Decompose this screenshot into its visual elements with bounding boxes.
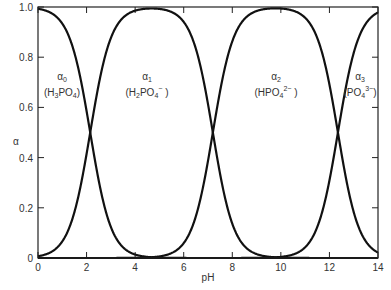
svg-text:(H2PO4− ): (H2PO4− ) — [125, 85, 168, 99]
svg-text:α3: α3 — [355, 71, 365, 83]
x-tick-label: 4 — [132, 262, 138, 273]
species-label-alpha0: α0 (H3PO4) — [44, 71, 80, 99]
svg-text:α2: α2 — [271, 71, 281, 83]
plot-frame — [38, 7, 378, 258]
x-tick-label: 8 — [230, 262, 236, 273]
x-tick-label: 12 — [324, 262, 336, 273]
x-tick-label: 2 — [84, 262, 90, 273]
curve-α1 — [38, 8, 378, 258]
alpha-curves — [38, 8, 378, 258]
phosphate-speciation-chart: 0246810121400.20.40.60.81.0 α pH α0 (H3P… — [0, 0, 391, 290]
y-tick-label: 1.0 — [19, 2, 33, 13]
axis-ticks: 0246810121400.20.40.60.81.0 — [19, 2, 384, 273]
svg-text:α1: α1 — [142, 71, 152, 83]
svg-text:(H3PO4): (H3PO4) — [44, 87, 80, 99]
x-tick-label: 14 — [372, 262, 384, 273]
y-tick-label: 0.8 — [19, 52, 33, 63]
x-tick-label: 6 — [181, 262, 187, 273]
svg-text:α0: α0 — [57, 71, 67, 83]
y-axis-title: α — [13, 136, 19, 147]
x-axis-title: pH — [202, 272, 215, 283]
species-label-alpha2: α2 (HPO42− ) — [255, 71, 298, 99]
svg-text:(PO43−): (PO43−) — [343, 85, 376, 99]
y-tick-label: 0 — [27, 253, 33, 264]
x-tick-label: 0 — [35, 262, 41, 273]
species-label-alpha1: α1 (H2PO4− ) — [125, 71, 168, 99]
y-tick-label: 0.6 — [19, 102, 33, 113]
svg-text:(HPO42− ): (HPO42− ) — [255, 85, 298, 99]
y-tick-label: 0.4 — [19, 153, 33, 164]
y-tick-label: 0.2 — [19, 203, 33, 214]
x-tick-label: 10 — [275, 262, 287, 273]
